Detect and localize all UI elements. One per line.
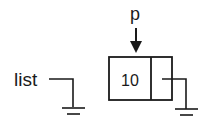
- linked-list-diagram: p list 10: [0, 0, 214, 124]
- node-data-value: 10: [121, 72, 139, 89]
- pointer-p-arrow: [130, 28, 142, 53]
- list-null-pointer: [49, 79, 85, 114]
- pointer-p-label: p: [130, 4, 140, 24]
- ground-icon: [175, 109, 198, 115]
- ground-icon: [62, 108, 85, 114]
- pointer-list-label: list: [14, 69, 38, 90]
